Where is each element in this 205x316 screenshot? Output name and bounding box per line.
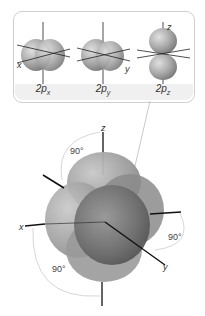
- orbital-2pz: z: [137, 22, 190, 84]
- axis-label-z: z: [166, 22, 172, 32]
- big-axis-label-y: y: [162, 262, 168, 272]
- label-2px: 2px: [36, 83, 51, 96]
- orbital-2py: y: [77, 22, 130, 84]
- big-axis-label-x: x: [18, 222, 24, 232]
- big-axis-label-z: z: [100, 123, 106, 133]
- angle-label-top: 90°: [70, 146, 84, 156]
- connector-line: [135, 101, 150, 166]
- orbital-2px: x: [16, 22, 70, 84]
- label-2py: 2py: [96, 83, 111, 96]
- axis-label-x: x: [16, 60, 22, 70]
- angle-label-left: 90°: [52, 264, 66, 274]
- orbital-diagram: x y z z x y: [0, 0, 205, 316]
- combined-orbital: z x y 90° 90° 90°: [18, 123, 184, 306]
- axis-label-y: y: [124, 64, 130, 74]
- angle-label-right: 90°: [168, 232, 182, 242]
- label-2pz: 2pz: [156, 83, 171, 96]
